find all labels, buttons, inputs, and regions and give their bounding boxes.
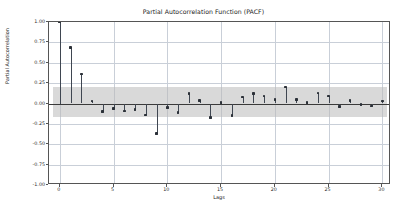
stem-marker: [231, 114, 234, 117]
y-tick-label: 1.00: [5, 19, 45, 24]
stem-line: [329, 96, 330, 103]
chart-title: Partial Autocorrelation Function (PACF): [0, 8, 407, 15]
x-tick-mark: [59, 184, 60, 187]
stem-marker: [188, 92, 191, 95]
x-tick-label: 15: [205, 187, 235, 192]
stem-marker: [177, 111, 180, 114]
stem-line: [60, 22, 61, 104]
y-axis-tick-marks: [46, 21, 49, 184]
stem-marker: [274, 98, 277, 101]
x-tick-mark: [220, 184, 221, 187]
y-tick-label: -1.00: [5, 182, 45, 187]
stem-line: [71, 47, 72, 103]
stem-marker: [101, 110, 104, 113]
stem-line: [264, 96, 265, 103]
gridline-horizontal: [49, 42, 389, 43]
x-tick-mark: [381, 184, 382, 187]
gridline-horizontal: [49, 83, 389, 84]
y-tick-mark: [46, 82, 49, 83]
stem-marker: [134, 108, 137, 111]
y-tick-mark: [46, 41, 49, 42]
stem-line: [253, 94, 254, 104]
x-tick-mark: [274, 184, 275, 187]
x-tick-label: 30: [366, 187, 396, 192]
y-tick-mark: [46, 103, 49, 104]
y-tick-mark: [46, 21, 49, 22]
y-tick-mark: [46, 62, 49, 63]
gridline-horizontal: [49, 124, 389, 125]
gridline-horizontal: [49, 63, 389, 64]
stem-marker: [252, 92, 255, 95]
x-tick-label: 10: [151, 187, 181, 192]
pacf-figure: Partial Autocorrelation Function (PACF) …: [0, 0, 407, 208]
x-tick-label: 20: [259, 187, 289, 192]
stem-marker: [112, 107, 115, 110]
x-tick-mark: [113, 184, 114, 187]
zero-baseline: [49, 104, 389, 105]
stem-marker: [338, 105, 341, 108]
y-tick-mark: [46, 143, 49, 144]
stem-marker: [220, 101, 223, 104]
y-tick-label: -0.25: [5, 120, 45, 125]
stem-marker: [370, 105, 373, 108]
stem-line: [189, 94, 190, 104]
gridline-horizontal: [49, 165, 389, 166]
x-tick-label: 0: [44, 187, 74, 192]
stem-marker: [166, 106, 169, 109]
x-tick-label: 5: [98, 187, 128, 192]
stem-line: [81, 74, 82, 103]
gridline-horizontal: [49, 144, 389, 145]
x-tick-mark: [328, 184, 329, 187]
y-tick-mark: [46, 123, 49, 124]
x-tick-label: 25: [313, 187, 343, 192]
y-tick-label: 0.75: [5, 39, 45, 44]
stem-marker: [155, 132, 158, 135]
stem-marker: [209, 116, 212, 119]
stem-marker: [317, 92, 320, 95]
y-tick-label: -0.75: [5, 161, 45, 166]
y-tick-label: -0.50: [5, 141, 45, 146]
stem-marker: [198, 99, 201, 102]
y-tick-label: 0.00: [5, 100, 45, 105]
stem-marker: [144, 114, 147, 117]
y-tick-label: 0.50: [5, 59, 45, 64]
x-tick-mark: [166, 184, 167, 187]
stem-line: [157, 104, 158, 134]
y-tick-label: 0.25: [5, 80, 45, 85]
y-tick-mark: [46, 164, 49, 165]
stem-marker: [295, 98, 298, 101]
stem-marker: [69, 46, 72, 49]
x-axis-tick-marks: [48, 184, 390, 187]
stem-line: [318, 93, 319, 104]
x-axis-label: Lags: [48, 194, 390, 200]
stem-line: [286, 87, 287, 103]
stem-marker: [241, 96, 244, 99]
plot-area: [48, 21, 390, 184]
y-axis-label: Partial Autocorrelation: [4, 6, 10, 106]
